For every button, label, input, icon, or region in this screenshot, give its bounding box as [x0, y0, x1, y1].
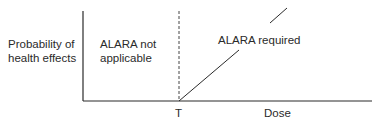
region-left-label-line1: ALARA not — [100, 37, 156, 51]
region-left-label-line2: applicable — [100, 51, 152, 65]
y-axis-label-line1: Probability of — [8, 37, 74, 51]
dose-response-line-lower — [179, 50, 239, 101]
dose-response-line-upper — [270, 8, 287, 23]
y-axis-label-line2: health effects — [8, 51, 76, 65]
region-right-label: ALARA required — [218, 33, 300, 47]
threshold-label: T — [175, 106, 182, 120]
x-axis-label: Dose — [264, 106, 291, 120]
